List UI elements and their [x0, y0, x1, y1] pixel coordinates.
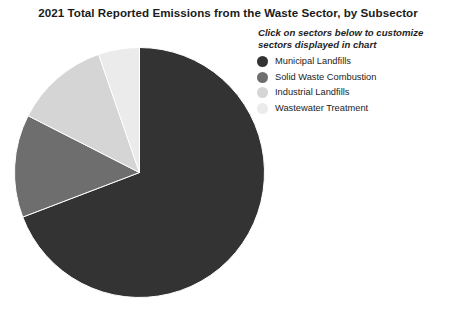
legend-item-label: Municipal Landfills [275, 56, 351, 67]
circle-swatch-icon [257, 56, 268, 67]
pie-chart-panel: 2021 Total Reported Emissions from the W… [0, 0, 456, 314]
circle-swatch-icon [257, 72, 268, 83]
circle-swatch-icon [257, 87, 268, 98]
legend-item-label: Wastewater Treatment [275, 103, 368, 114]
legend-item-industrial-landfills[interactable]: Industrial Landfills [257, 85, 455, 100]
legend-item-municipal-landfills[interactable]: Municipal Landfills [257, 54, 455, 69]
pie-slice-group [14, 48, 264, 298]
pie-chart-svg [14, 47, 265, 298]
legend-item-wastewater-treatment[interactable]: Wastewater Treatment [257, 101, 455, 116]
legend-item-label: Solid Waste Combustion [275, 72, 376, 83]
pie-chart [14, 47, 265, 298]
page-title: 2021 Total Reported Emissions from the W… [0, 6, 456, 20]
legend-item-solid-waste-combustion[interactable]: Solid Waste Combustion [257, 70, 455, 85]
circle-swatch-icon [257, 103, 268, 114]
chart-instruction-text: Click on sectors below to customize sect… [258, 27, 454, 52]
chart-legend: Municipal Landfills Solid Waste Combusti… [257, 54, 455, 116]
legend-item-label: Industrial Landfills [275, 87, 349, 98]
